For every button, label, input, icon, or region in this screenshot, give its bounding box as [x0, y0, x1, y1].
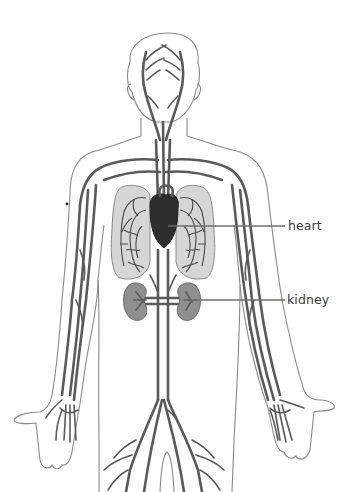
body-outline	[14, 33, 334, 492]
heart	[150, 185, 178, 248]
kidney-right	[177, 283, 200, 320]
blood-vessels	[46, 45, 304, 492]
circulatory-system-diagram	[0, 0, 348, 492]
heart-label: heart	[288, 218, 322, 233]
kidneys	[123, 283, 200, 320]
kidney-label: kidney	[287, 292, 329, 307]
stray-mark	[66, 203, 69, 206]
